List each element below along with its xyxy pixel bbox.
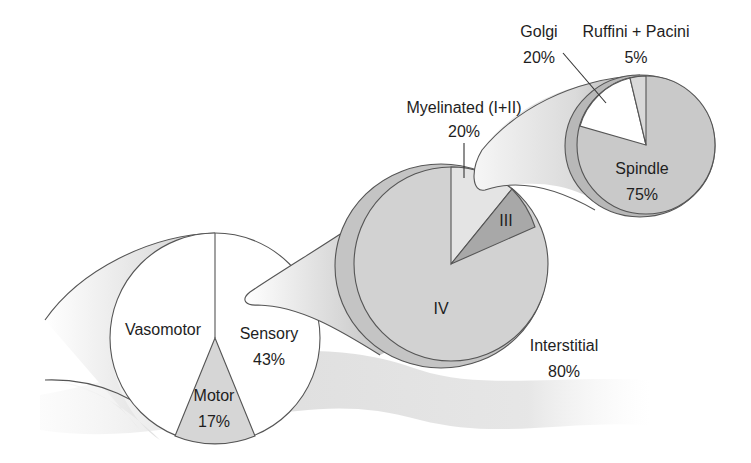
- label-golgi: Golgi: [520, 23, 557, 40]
- pie-2: [354, 167, 548, 361]
- label-vasomotor: Vasomotor: [125, 321, 202, 338]
- label-III: III: [499, 212, 512, 229]
- label-IV: IV: [433, 300, 448, 317]
- label-spindle: Spindle: [615, 160, 668, 177]
- label-myelinated: Myelinated (I+II): [406, 99, 521, 116]
- value-myelinated: 20%: [448, 123, 480, 140]
- label-motor: Motor: [194, 387, 236, 404]
- value-sensory: 43%: [253, 351, 285, 368]
- label-sensory: Sensory: [240, 325, 299, 342]
- value-golgi: 20%: [523, 49, 555, 66]
- label-ruffini-pacini: Ruffini + Pacini: [583, 23, 690, 40]
- nerve-fiber-pie-diagram: Vasomotor Sensory 43% Motor 17% Myelinat…: [0, 0, 751, 463]
- value-motor: 17%: [198, 413, 230, 430]
- value-ruffini-pacini: 5%: [624, 49, 647, 66]
- value-spindle: 75%: [626, 186, 658, 203]
- label-interstitial: Interstitial: [530, 337, 598, 354]
- value-interstitial: 80%: [548, 363, 580, 380]
